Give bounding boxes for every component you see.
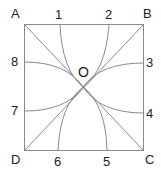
label-4: 4 [146,107,153,120]
label-1: 1 [55,8,62,21]
label-a: A [11,7,20,20]
arc-7 [25,87,84,111]
label-8: 8 [11,55,18,68]
label-b: B [143,7,152,20]
label-o: O [78,65,89,79]
arc-6 [58,87,83,151]
label-2: 2 [105,8,112,21]
square-diagram [0,0,161,174]
label-7: 7 [11,104,18,117]
arc-8 [25,62,84,87]
label-6: 6 [54,155,61,168]
arc-5 [83,87,107,151]
label-c: C [145,153,154,166]
arc-3 [83,63,144,87]
label-5: 5 [103,155,110,168]
label-3: 3 [146,56,153,69]
label-d: D [11,153,20,166]
arc-4 [83,87,144,113]
